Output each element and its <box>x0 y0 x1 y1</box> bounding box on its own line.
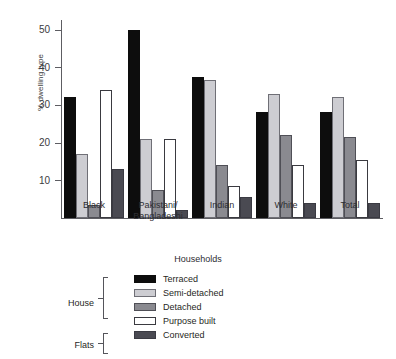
x-axis-tick-label: Total <box>307 200 393 211</box>
bar-group-bars <box>320 22 380 218</box>
plot-area <box>62 22 382 218</box>
y-axis-tick: 20 <box>55 143 61 144</box>
legend-entry: Terraced <box>134 272 198 286</box>
legend-bracket-flats <box>103 333 108 354</box>
y-axis-tick: 30 <box>55 105 61 106</box>
legend-swatch <box>134 317 156 325</box>
y-axis-tick-label: 40 <box>39 63 55 73</box>
bar-group-bars <box>192 22 252 218</box>
bar-chart-figure: % dwelling type 1020304050 BlackPakistan… <box>0 0 396 359</box>
legend-swatch <box>134 331 156 339</box>
x-axis-label: Households <box>0 254 396 264</box>
legend-label: Terraced <box>163 274 198 284</box>
legend-entry: Converted <box>134 328 205 342</box>
x-axis-tick-label-line: Total <box>307 200 393 211</box>
x-axis-tick-label-line: Bangladeshi <box>115 211 201 222</box>
bar-group-bars <box>256 22 316 218</box>
legend-swatch <box>134 303 156 311</box>
legend-label: Semi-detached <box>163 288 224 298</box>
legend-swatch <box>134 275 156 283</box>
y-axis-tick: 40 <box>55 67 61 68</box>
legend-bracket-stem-flats <box>98 343 103 344</box>
legend-group-label-flats: Flats <box>46 340 94 350</box>
bar <box>100 90 112 218</box>
legend-entry: Purpose built <box>134 314 216 328</box>
y-axis-tick-label: 10 <box>39 176 55 186</box>
legend-group-label-house: House <box>46 298 94 308</box>
y-axis-tick-label: 50 <box>39 25 55 35</box>
legend-label: Detached <box>163 302 202 312</box>
y-axis-tick-label: 30 <box>39 100 55 110</box>
legend-entry: Semi-detached <box>134 286 224 300</box>
y-axis-label: % dwelling type <box>36 38 45 128</box>
legend-label: Converted <box>163 330 205 340</box>
legend-bracket-house <box>103 277 108 319</box>
bar <box>192 77 204 218</box>
x-axis-line <box>61 218 383 219</box>
bar-group-bars <box>128 22 188 218</box>
chart-legend: House Flats TerracedSemi-detachedDetache… <box>46 272 276 356</box>
bar-group-bars <box>64 22 124 218</box>
legend-entry: Detached <box>134 300 202 314</box>
y-axis-tick: 50 <box>55 30 61 31</box>
bar <box>128 30 140 218</box>
y-axis-tick-label: 20 <box>39 138 55 148</box>
y-axis-tick: 10 <box>55 180 61 181</box>
legend-swatch <box>134 289 156 297</box>
bar <box>204 80 216 218</box>
legend-bracket-stem-house <box>98 298 103 299</box>
legend-label: Purpose built <box>163 316 216 326</box>
